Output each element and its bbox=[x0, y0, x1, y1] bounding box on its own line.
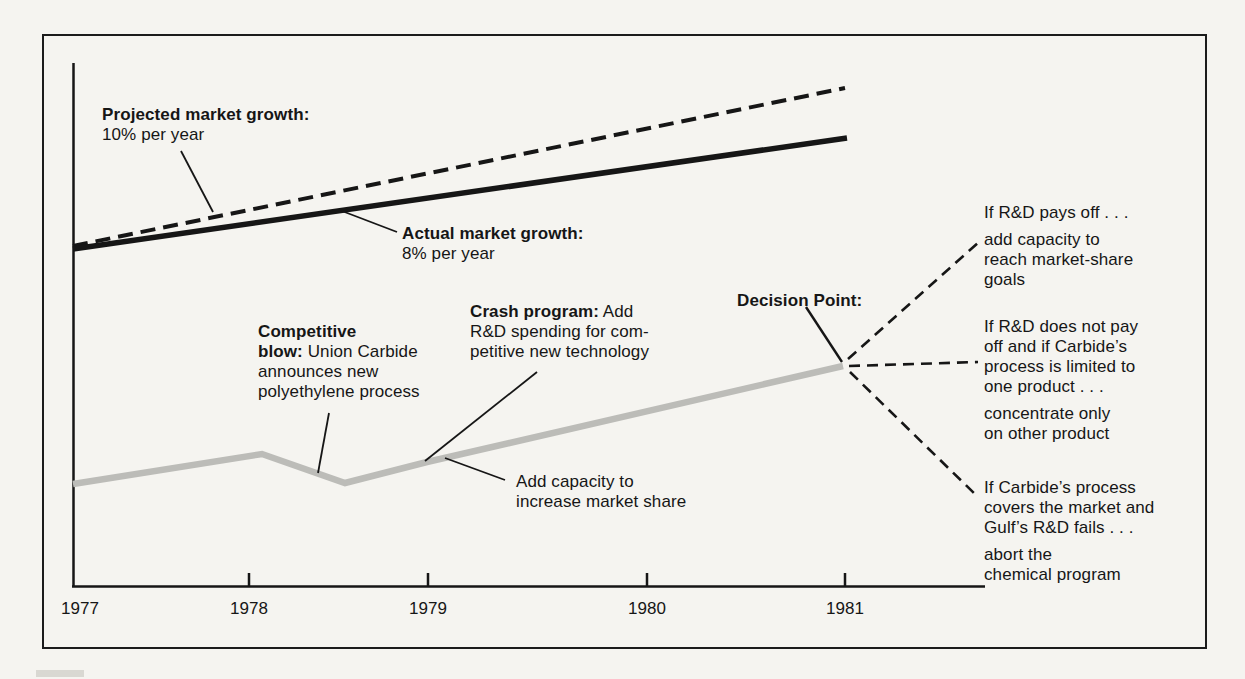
annotation-line: If R&D does not pay bbox=[984, 317, 1138, 337]
annotation-branch-abort-program: If Carbide’s processcovers the market an… bbox=[984, 478, 1154, 585]
annotation-line: 8% per year bbox=[402, 244, 584, 264]
add-capacity-leader bbox=[445, 458, 505, 480]
annotation-decision-point: Decision Point: bbox=[737, 291, 862, 311]
annotation-line: 10% per year bbox=[102, 125, 309, 145]
annotation-line: increase market share bbox=[516, 492, 686, 512]
branch-middle-dashed bbox=[849, 362, 978, 366]
annotation-line: off and if Carbide’s bbox=[984, 337, 1138, 357]
actual-leader bbox=[342, 211, 397, 232]
annotation-line: Decision Point: bbox=[737, 291, 862, 311]
annotation-line: reach market-share bbox=[984, 250, 1133, 270]
annotation-branch-rd-pays-off: If R&D pays off . . .add capacity toreac… bbox=[984, 203, 1133, 290]
annotation-projected-growth: Projected market growth:10% per year bbox=[102, 105, 309, 145]
annotation-line: Projected market growth: bbox=[102, 105, 309, 125]
annotation-line: petitive new technology bbox=[470, 342, 649, 362]
annotation-add-capacity: Add capacity toincrease market share bbox=[516, 472, 686, 512]
branch-bottom-dashed bbox=[850, 372, 978, 497]
annotation-line: If R&D pays off . . . bbox=[984, 203, 1133, 223]
competitive-leader bbox=[318, 413, 329, 473]
annotation-line: R&D spending for com- bbox=[470, 322, 649, 342]
annotation-line: polyethylene process bbox=[258, 382, 420, 402]
annotation-line: Crash program: Add bbox=[470, 302, 649, 322]
annotation-competitive-blow: Competitiveblow: Union Carbideannounces … bbox=[258, 322, 420, 402]
annotation-line: on other product bbox=[984, 424, 1138, 444]
x-axis-tick-label: 1978 bbox=[230, 599, 268, 618]
decision-leader bbox=[806, 307, 842, 362]
annotation-line: covers the market and bbox=[984, 498, 1154, 518]
annotation-line: chemical program bbox=[984, 565, 1154, 585]
annotation-line: Add capacity to bbox=[516, 472, 686, 492]
scanned-figure: 19771978197919801981 Projected market gr… bbox=[0, 0, 1245, 679]
page-scan-artifact bbox=[36, 670, 84, 677]
annotation-line: one product . . . bbox=[984, 377, 1138, 397]
branch-top-dashed bbox=[848, 242, 979, 359]
annotation-branch-rd-fails-limited: If R&D does not payoff and if Carbide’sp… bbox=[984, 317, 1138, 444]
annotation-line: Competitive bbox=[258, 322, 420, 342]
annotation-line: goals bbox=[984, 270, 1133, 290]
x-axis-tick-label: 1977 bbox=[61, 599, 99, 618]
projected-leader bbox=[181, 151, 213, 212]
x-axis-tick-label: 1979 bbox=[409, 599, 447, 618]
annotation-crash-program: Crash program: AddR&D spending for com-p… bbox=[470, 302, 649, 362]
annotation-line: concentrate only bbox=[984, 404, 1138, 424]
x-axis-tick-label: 1981 bbox=[826, 599, 864, 618]
performance-line bbox=[73, 366, 843, 484]
annotation-line: blow: Union Carbide bbox=[258, 342, 420, 362]
annotation-line: If Carbide’s process bbox=[984, 478, 1154, 498]
annotation-line: announces new bbox=[258, 362, 420, 382]
x-axis-tick-label: 1980 bbox=[628, 599, 666, 618]
annotation-line: abort the bbox=[984, 545, 1154, 565]
annotation-line: Gulf’s R&D fails . . . bbox=[984, 518, 1154, 538]
annotation-actual-growth: Actual market growth:8% per year bbox=[402, 224, 584, 264]
annotation-line: process is limited to bbox=[984, 357, 1138, 377]
annotation-line: Actual market growth: bbox=[402, 224, 584, 244]
annotation-line: add capacity to bbox=[984, 230, 1133, 250]
